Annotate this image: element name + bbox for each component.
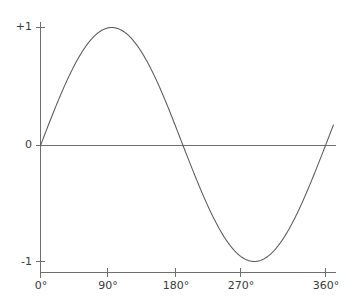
y-tick-label-zero: 0 [6, 139, 32, 150]
y-tick-label-plus1: +1 [6, 21, 32, 32]
sine-wave-chart: +1 0 -1 0° 90° 180° 270° 360° [0, 0, 349, 300]
y-tick-label-minus1: -1 [6, 256, 32, 267]
sine-curve [41, 28, 334, 262]
x-tick-label-180: 180° [153, 280, 199, 291]
x-tick-label-360: 360° [303, 280, 349, 291]
x-tick-label-0: 0° [19, 280, 63, 291]
x-tick-label-90: 90° [86, 280, 130, 291]
x-tick-label-270: 270° [218, 280, 264, 291]
plot-area [0, 0, 349, 300]
